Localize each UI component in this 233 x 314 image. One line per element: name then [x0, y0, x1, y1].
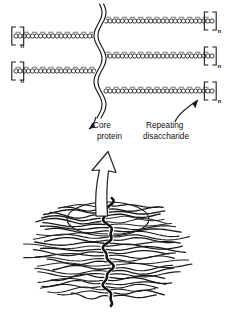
sugar-unit [108, 89, 112, 93]
sugar-unit [128, 19, 132, 23]
gag-chain: n [104, 12, 222, 34]
sugar-unit [47, 34, 51, 38]
aggregate-bristle [116, 263, 192, 267]
sugar-unit [71, 69, 75, 73]
proteoglycan-detail: nnnnn [12, 4, 222, 118]
sugar-unit [173, 54, 177, 58]
sugar-unit [198, 54, 202, 58]
sugar-unit [55, 34, 59, 38]
sugar-unit [88, 69, 92, 73]
sugar-unit [145, 19, 149, 23]
sugar-unit [55, 69, 59, 73]
sugar-unit [149, 54, 153, 58]
sugar-unit [145, 89, 149, 93]
sugar-unit [59, 34, 63, 38]
sugar-unit [18, 34, 22, 38]
sugar-unit [75, 69, 79, 73]
sugar-unit [141, 54, 145, 58]
sugar-unit [132, 89, 136, 93]
aggregate-bristle [110, 256, 175, 261]
repeat-subscript: n [21, 43, 25, 49]
sugar-unit [39, 34, 43, 38]
sugar-unit [124, 19, 128, 23]
sugar-unit [137, 19, 141, 23]
sugar-unit [112, 54, 116, 58]
gag-chain: n [104, 82, 222, 104]
core-protein-label-line2: protein [97, 132, 122, 141]
sugar-unit [80, 69, 84, 73]
aggregate-bristle [109, 251, 169, 254]
sugar-unit [153, 89, 157, 93]
aggregate-bristle [71, 293, 108, 299]
sugar-unit [112, 19, 116, 23]
sugar-unit [141, 89, 145, 93]
sugar-unit [120, 54, 124, 58]
aggregate-bristle [114, 295, 156, 298]
gag-chain: n [12, 27, 96, 49]
sugar-unit [112, 89, 116, 93]
core-protein-label-line1: Core [93, 121, 111, 130]
aggregate-bristle [35, 257, 104, 261]
sugar-unit [181, 54, 185, 58]
repeat-subscript: n [218, 28, 222, 34]
sugar-unit [71, 34, 75, 38]
proteoglycan-figure: nnnnn Core protein Repeating disaccharid… [0, 0, 233, 314]
core-protein-strand [94, 4, 106, 118]
sugar-unit [34, 34, 38, 38]
sugar-unit [67, 69, 71, 73]
repeat-subscript: n [218, 98, 222, 104]
repeat-subscript: n [21, 78, 25, 84]
sugar-unit [14, 69, 18, 73]
sugar-unit [210, 89, 214, 93]
sugar-unit [189, 19, 193, 23]
sugar-unit [206, 19, 210, 23]
aggregate-bristle [35, 242, 104, 245]
sugar-unit [177, 54, 181, 58]
sugar-unit [51, 69, 55, 73]
sugar-unit [181, 89, 185, 93]
sugar-unit [84, 69, 88, 73]
sugar-unit [189, 54, 193, 58]
sugar-unit [169, 89, 173, 93]
sugar-unit [206, 89, 210, 93]
sugar-unit [108, 54, 112, 58]
sugar-unit [116, 54, 120, 58]
sugar-unit [141, 19, 145, 23]
sugar-unit [181, 19, 185, 23]
sugar-unit [67, 34, 71, 38]
sugar-unit [206, 54, 210, 58]
sugar-unit [47, 69, 51, 73]
sugar-unit [30, 69, 34, 73]
sugar-unit [169, 19, 173, 23]
sugar-unit [39, 69, 43, 73]
sugar-unit [120, 19, 124, 23]
sugar-unit [59, 69, 63, 73]
sugar-unit [137, 54, 141, 58]
sugar-unit [210, 19, 214, 23]
sugar-unit [128, 89, 132, 93]
sugar-unit [80, 34, 84, 38]
sugar-unit [120, 89, 124, 93]
sugar-unit [198, 89, 202, 93]
sugar-unit [194, 19, 198, 23]
sugar-unit [194, 89, 198, 93]
sugar-unit [198, 19, 202, 23]
sugar-unit [30, 34, 34, 38]
sugar-unit [116, 19, 120, 23]
gag-chain: n [12, 62, 96, 84]
sugar-unit [161, 54, 165, 58]
sugar-unit [43, 69, 47, 73]
sugar-unit [75, 34, 79, 38]
sugar-unit [185, 54, 189, 58]
sugar-unit [88, 34, 92, 38]
repeat-bracket: n [12, 27, 25, 49]
sugar-unit [157, 89, 161, 93]
sugar-unit [169, 54, 173, 58]
sugar-unit [185, 89, 189, 93]
sugar-unit [189, 89, 193, 93]
sugar-unit [124, 54, 128, 58]
sugar-unit [63, 69, 67, 73]
sugar-unit [116, 89, 120, 93]
sugar-unit [161, 89, 165, 93]
sugar-unit [157, 19, 161, 23]
